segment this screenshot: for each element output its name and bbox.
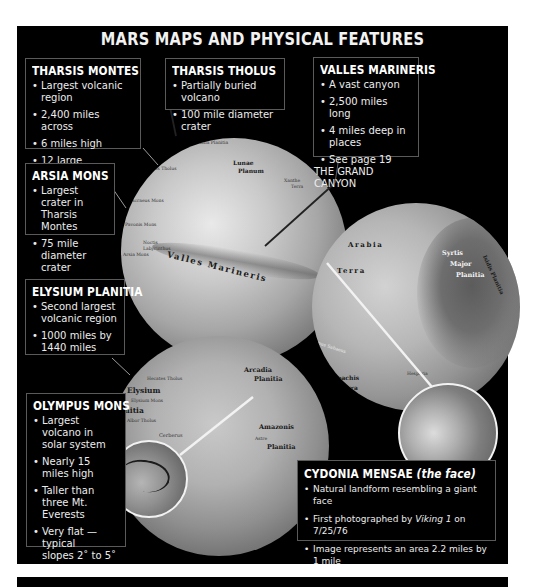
heading-tharsis-montes: THARSIS MONTES	[32, 64, 126, 78]
info-box-valles-marineris: VALLES MARINERIS A vast canyon 2,500 mil…	[313, 57, 419, 157]
info-box-elysium-planitia: ELYSIUM PLANITIA Second largest volcanic…	[25, 279, 125, 355]
bullet-line: 1000 miles by	[41, 330, 118, 342]
map-label-amazonis-planitia: Planitia	[267, 443, 295, 452]
map-label-major: Major	[450, 260, 472, 269]
map-label-tharsis-tholus: Tharsis Tholus	[143, 166, 176, 171]
bullet-item: Very flat —typical slopes 2˚ to 5˚	[33, 526, 119, 562]
map-label-planum: Planum	[238, 166, 264, 175]
bullet-item: Natural landform resembling a giant face	[304, 483, 489, 507]
heading-olympus-mons: OLYMPUS MONS	[33, 399, 112, 413]
bullet-item: 1000 miles by 1440 miles	[32, 330, 118, 354]
info-box-tharsis-montes: THARSIS MONTES Largest volcanic region 2…	[25, 58, 141, 149]
bullet-item: 4 miles deep in places	[320, 125, 412, 149]
map-label-arabia: Arabia	[348, 240, 383, 249]
bullet-item: Nearly 15 miles high	[33, 456, 119, 480]
bullet-line: Nearly 15	[42, 456, 119, 468]
bullet-item: Largest volcanic region	[32, 80, 134, 104]
see-page-line: See page 19	[329, 154, 412, 166]
map-label-acidalia: Acidalia Planitia	[191, 140, 228, 145]
bullet-item: A vast canyon	[320, 79, 412, 91]
map-label-ascraeus-mons: Ascraeus Mons	[129, 198, 164, 203]
bullet-line: Second largest	[41, 301, 118, 313]
map-label-syrtis: Syrtis	[442, 249, 463, 258]
info-box-tharsis-tholus: THARSIS THOLUS Partially buried volcano …	[165, 58, 285, 110]
bullet-line: volcano in	[42, 427, 119, 439]
bullet-item: Second largest volcanic region	[32, 301, 118, 325]
bullet-line: 1440 miles	[41, 342, 118, 354]
bullet-line: Largest crater in	[41, 185, 108, 209]
bullet-item: Largest volcano in solar system	[33, 415, 119, 451]
bullet-item: 75 mile diameter crater	[32, 238, 108, 274]
bullet-line: Taller than	[42, 485, 119, 497]
map-label-labyrinthus: Labyrinthus	[143, 246, 171, 251]
map-label-astre: Astre	[255, 436, 267, 441]
info-box-cydonia-mensae: CYDONIA MENSAE (the face) Natural landfo…	[297, 460, 496, 541]
bullet-line: 75 mile diameter	[41, 238, 108, 262]
heading-cydonia-mensae: CYDONIA MENSAE (the face)	[304, 467, 474, 481]
heading-tharsis-tholus: THARSIS THOLUS	[172, 64, 270, 78]
bullet-line: crater	[41, 262, 108, 274]
bullet-item: Taller than three Mt. Everests	[33, 485, 119, 521]
bullet-line: Tharsis Montes	[41, 209, 108, 233]
info-box-arsia-mons: ARSIA MONS Largest crater in Tharsis Mon…	[25, 163, 115, 235]
bullet-item: 100 mile diameter crater	[172, 109, 278, 133]
heading-text: CYDONIA MENSAE	[304, 467, 413, 481]
mars-globe-syrtis: Arabia Terra Syrtis Major Planitia Isidi…	[312, 203, 520, 411]
map-label-arsia: Arsia Mons	[123, 252, 149, 257]
bottom-bar	[17, 577, 508, 587]
map-label-hecates-tholus: Hecates Tholus	[147, 376, 182, 381]
heading-valles-marineris: VALLES MARINERIS	[320, 63, 405, 77]
bullet-item: 6 miles high	[32, 138, 134, 150]
map-label-noachis-terra: Terra	[340, 383, 358, 392]
bullet-item: Image represents an area 2.2 miles by 1 …	[304, 543, 489, 567]
map-label-noctis: Noctis	[143, 240, 158, 245]
heading-arsia-mons: ARSIA MONS	[32, 169, 102, 183]
spacecraft-name: Viking 1	[415, 514, 451, 524]
grand-canyon-reference: THE GRAND CANYON	[314, 166, 412, 190]
see-page-reference: See page 19	[320, 154, 412, 166]
bullet-line: volcanic region	[41, 313, 118, 325]
bullet-line: miles high	[42, 468, 119, 480]
bullet-item: First photographed by Viking 1 on 7/25/7…	[304, 513, 489, 537]
bullet-line: solar system	[42, 439, 119, 451]
bullet-line: three Mt. Everests	[42, 497, 119, 521]
bullet-item: 2,500 miles long	[320, 96, 412, 120]
map-label-arabia-terra: Terra	[337, 266, 366, 275]
page-title: MARS MAPS AND PHYSICAL FEATURES	[51, 26, 473, 52]
olympus-mons-caldera-rim	[118, 457, 172, 496]
map-label-albor-tholus: Albor Tholus	[127, 418, 156, 423]
map-label-elysium: Elysium	[127, 386, 160, 395]
map-label-xanthe: Xanthe	[284, 178, 300, 183]
map-label-arcadia: Arcadia	[244, 366, 272, 375]
map-label-amazonis: Amazonis	[259, 423, 294, 432]
map-label-pavonis-mons: Pavonis Mons	[125, 222, 156, 227]
heading-elysium-planitia: ELYSIUM PLANITIA	[32, 285, 111, 299]
map-label-xanthe-terra: Terra	[291, 184, 303, 189]
info-box-olympus-mons: OLYMPUS MONS Largest volcano in solar sy…	[26, 393, 126, 547]
bullet-text: First photographed by	[313, 514, 415, 524]
map-label-syrtis-planitia: Planitia	[456, 271, 484, 280]
map-label-elysium-mons: Elysium Mons	[131, 398, 163, 403]
bullet-line: Very flat —typical	[42, 526, 119, 550]
map-label-hesperia: Hesperia	[407, 371, 428, 376]
map-label-noachis: Noachis	[332, 373, 359, 382]
map-label-cerberus: Cerberus	[159, 433, 183, 438]
map-label-arcadia-planitia: Planitia	[254, 375, 282, 384]
bullet-item: Partially buried volcano	[172, 80, 278, 104]
bullet-item: 2,400 miles across	[32, 109, 134, 133]
bullet-line: slopes 2˚ to 5˚	[42, 550, 119, 562]
bullet-item: Largest crater in Tharsis Montes	[32, 185, 108, 233]
bullet-line: Largest	[42, 415, 119, 427]
heading-subtitle: (the face)	[417, 467, 476, 481]
